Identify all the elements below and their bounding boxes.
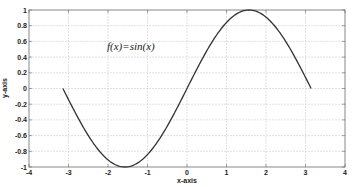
- x-axis-label: x-axis: [177, 177, 197, 184]
- x-tick-label: 0: [185, 169, 189, 176]
- y-axis-label: y-axis: [1, 78, 9, 98]
- x-tick-label: 4: [343, 169, 347, 176]
- x-tick-label: 3: [304, 169, 308, 176]
- x-tick-label: 1: [225, 169, 229, 176]
- x-tick-label: 2: [264, 169, 268, 176]
- x-tick-label: -1: [144, 169, 150, 176]
- y-tick-label: -0.2: [15, 101, 27, 108]
- y-tick-label: 0.2: [17, 69, 27, 76]
- y-tick-label: 0.8: [17, 22, 27, 29]
- y-tick-label: 0.6: [17, 38, 27, 45]
- y-tick-label: 1: [23, 7, 27, 14]
- y-tick-label: -0.8: [15, 148, 27, 155]
- y-tick-label: -1: [21, 164, 27, 171]
- y-tick-label: -0.4: [15, 116, 27, 123]
- y-tick-label: 0.4: [17, 54, 27, 61]
- sine-chart: -4-3-2-101234-1-0.8-0.6-0.4-0.200.20.40.…: [0, 0, 352, 187]
- function-annotation: f(x)=sin(x): [107, 40, 155, 53]
- x-tick-label: -2: [105, 169, 111, 176]
- x-tick-label: -3: [65, 169, 71, 176]
- y-tick-label: 0: [23, 85, 27, 92]
- y-tick-label: -0.6: [15, 132, 27, 139]
